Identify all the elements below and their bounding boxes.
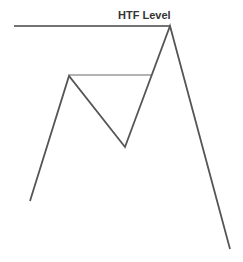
htf-level-label: HTF Level [118, 9, 171, 21]
price-structure-diagram [0, 0, 243, 262]
price-path [30, 26, 230, 249]
